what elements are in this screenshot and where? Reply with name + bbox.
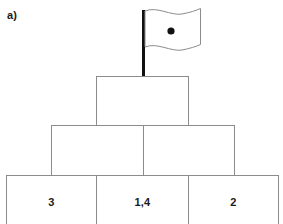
part-label: a) [7,10,17,21]
flag-inner-wave [145,27,201,33]
pyramid-cell-base-center-value: 1,4 [135,197,151,208]
pyramid-cell-apex[interactable] [96,76,189,126]
pyramid-cell-middle-right[interactable] [143,125,235,176]
pyramid-cell-base-left[interactable]: 3 [6,175,97,224]
pyramid-cell-base-center[interactable]: 1,4 [96,175,189,224]
flag-banner [145,9,201,51]
pyramid-cell-base-right[interactable]: 2 [188,175,279,224]
pyramid-cell-base-right-value: 2 [230,197,236,208]
pyramid-cell-base-left-value: 3 [48,197,54,208]
flag-dot-icon [167,27,174,34]
pyramid-cell-middle-left[interactable] [51,125,144,176]
figure-canvas: a) 3 1,4 2 [0,0,283,224]
